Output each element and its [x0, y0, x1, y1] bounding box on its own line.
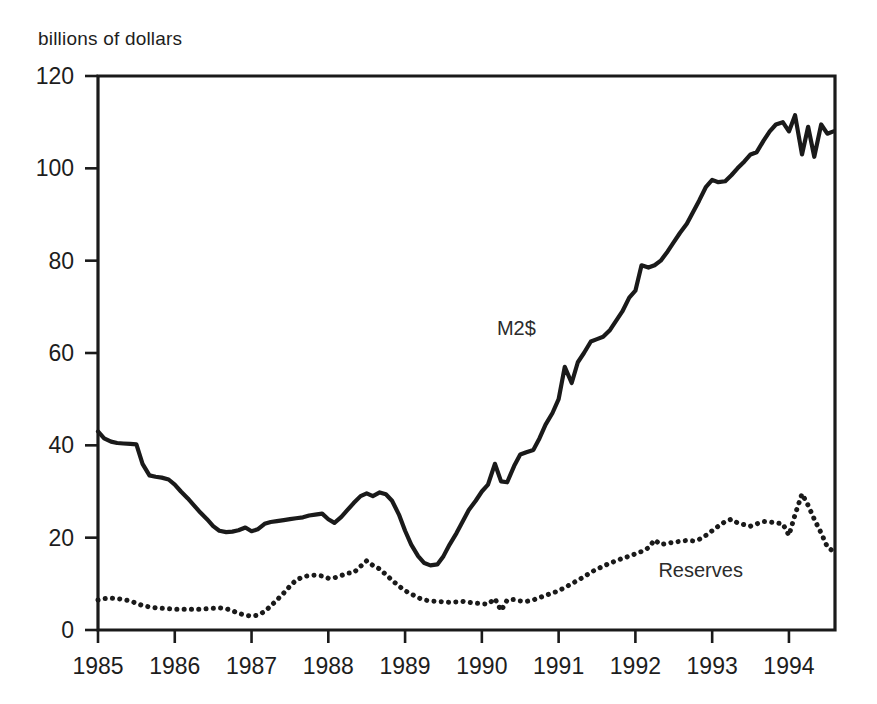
y-tick-label: 20	[48, 525, 74, 551]
y-tick-label: 80	[48, 248, 74, 274]
x-tick-label: 1987	[226, 653, 277, 679]
x-tick-label: 1990	[456, 653, 507, 679]
y-tick-label: 60	[48, 340, 74, 366]
y-tick-label: 100	[36, 155, 74, 181]
series-label-reserves: Reserves	[658, 559, 742, 581]
plot-frame	[98, 76, 835, 630]
axes-group	[98, 76, 835, 630]
x-tick-label: 1989	[379, 653, 430, 679]
x-tick-label: 1986	[149, 653, 200, 679]
series-label-m2: M2$	[497, 317, 536, 339]
y-tick-label: 0	[61, 617, 74, 643]
line-chart-canvas: 020406080100120 198519861987198819891990…	[0, 0, 877, 704]
x-tick-label: 1991	[533, 653, 584, 679]
x-tick-label: 1992	[610, 653, 661, 679]
x-tick-label: 1993	[687, 653, 738, 679]
x-tick-label: 1988	[303, 653, 354, 679]
data-series-group	[98, 115, 833, 616]
x-tick-label: 1985	[72, 653, 123, 679]
y-tick-labels-group: 020406080100120	[36, 63, 74, 643]
chart-figure: billions of dollars 020406080100120 1985…	[0, 0, 877, 704]
y-tick-label: 120	[36, 63, 74, 89]
y-tick-label: 40	[48, 432, 74, 458]
x-tick-label: 1994	[763, 653, 814, 679]
x-tick-labels-group: 1985198619871988198919901991199219931994	[72, 653, 814, 679]
series-line-m2	[98, 115, 833, 565]
